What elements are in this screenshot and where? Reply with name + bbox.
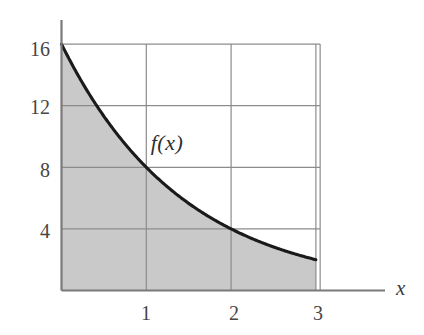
- y-tick-label-16: 16: [4, 39, 50, 59]
- x-tick-label-3: 3: [313, 303, 323, 323]
- y-tick-label-4: 4: [4, 221, 50, 241]
- figure-container: 16 12 8 4 1 2 3 x f(x): [0, 0, 424, 335]
- curve-label-fx: f(x): [151, 132, 184, 154]
- x-tick-label-2: 2: [229, 303, 239, 323]
- x-tick-label-1: 1: [141, 303, 151, 323]
- y-tick-label-8: 8: [4, 160, 50, 180]
- x-axis-label: x: [396, 278, 405, 299]
- y-tick-label-12: 12: [4, 97, 50, 117]
- plot-area: [0, 0, 424, 335]
